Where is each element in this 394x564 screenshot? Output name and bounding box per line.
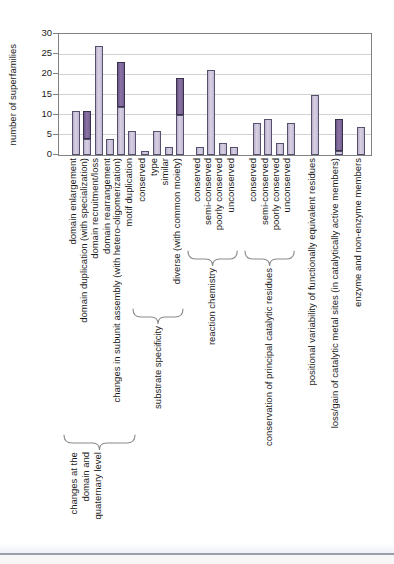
bar-dark-segment bbox=[83, 111, 91, 139]
group-brace bbox=[244, 250, 295, 268]
y-tick-mark bbox=[53, 33, 58, 34]
group-label: changes at the domain and quaternary lev… bbox=[68, 452, 104, 520]
x-category-label: enzyme and non-enzyme members bbox=[352, 158, 364, 307]
group-brace bbox=[63, 434, 136, 452]
y-tick-label-5: 5 bbox=[28, 128, 52, 140]
bar-light-segment bbox=[276, 143, 284, 155]
gridline-25 bbox=[59, 54, 371, 55]
bar-light-segment bbox=[83, 139, 91, 155]
y-tick-label-0: 0 bbox=[28, 148, 52, 160]
x-category-label: motif duplication bbox=[123, 158, 135, 227]
x-category-label: diverse (with common moiety) bbox=[171, 158, 183, 284]
x-category-label: positional variability of functionally e… bbox=[306, 158, 318, 386]
y-tick-label-20: 20 bbox=[28, 67, 52, 79]
x-category-label-slot: loss/gain of catalytic metal sites (in c… bbox=[329, 158, 342, 503]
bar-light-segment bbox=[357, 127, 365, 155]
y-tick-label-15: 15 bbox=[28, 88, 52, 100]
y-tick-mark bbox=[53, 134, 58, 135]
bar-light-segment bbox=[72, 111, 80, 155]
bar-light-segment bbox=[287, 123, 295, 155]
bar-light-segment bbox=[106, 139, 114, 155]
bar-light-segment bbox=[165, 147, 173, 155]
bar-light-segment bbox=[253, 123, 261, 155]
x-category-label: conserved bbox=[136, 158, 148, 202]
bar-light-segment bbox=[264, 119, 272, 155]
x-category-label: loss/gain of catalytic metal sites (in c… bbox=[329, 158, 341, 428]
x-category-label: similar bbox=[159, 158, 171, 185]
group-label: substrate specificity bbox=[152, 326, 164, 409]
y-tick-mark bbox=[53, 73, 58, 74]
y-axis-title: number of superfamilies bbox=[4, 34, 20, 156]
bar-light-segment bbox=[153, 131, 161, 155]
y-axis-title-text: number of superfamilies bbox=[7, 44, 18, 145]
bar-dark-segment bbox=[335, 119, 343, 151]
x-category-label-slot: unconserved bbox=[224, 158, 237, 503]
y-tick-label-25: 25 bbox=[28, 47, 52, 59]
group-brace bbox=[132, 308, 184, 326]
x-category-label-slot: diverse (with common moiety) bbox=[170, 158, 183, 503]
bar-light-segment bbox=[311, 95, 319, 156]
y-tick-mark bbox=[53, 94, 58, 95]
group-label: reaction chemistry bbox=[206, 268, 218, 345]
bar-light-segment bbox=[117, 107, 125, 155]
x-category-label: unconserved bbox=[225, 158, 237, 212]
group-label-slot: changes at the domain and quaternary lev… bbox=[66, 452, 106, 542]
bar-dark-segment bbox=[117, 62, 125, 106]
figure-page: number of superfamilies 051015202530 dom… bbox=[0, 0, 394, 564]
bar-dark-segment bbox=[176, 78, 184, 114]
bar-light-segment bbox=[230, 147, 238, 155]
y-tick-label-10: 10 bbox=[28, 108, 52, 120]
group-label-slot: conservation of principal catalytic resi… bbox=[262, 268, 275, 483]
bottom-margin bbox=[0, 555, 394, 564]
bar-light-segment bbox=[141, 151, 149, 155]
x-category-label-slot: unconserved bbox=[281, 158, 294, 503]
y-tick-mark bbox=[53, 114, 58, 115]
bar-light-segment bbox=[335, 151, 343, 155]
bar-light-segment bbox=[196, 147, 204, 155]
bar-light-segment bbox=[219, 143, 227, 155]
group-brace bbox=[187, 250, 238, 268]
bar-light-segment bbox=[176, 115, 184, 155]
y-tick-mark bbox=[53, 53, 58, 54]
plot-area bbox=[58, 33, 372, 156]
bottom-band bbox=[0, 544, 394, 553]
x-category-label-slot: positional variability of functionally e… bbox=[305, 158, 318, 503]
bar-light-segment bbox=[95, 46, 103, 155]
bar-light-segment bbox=[128, 131, 136, 155]
y-tick-mark bbox=[53, 154, 58, 155]
bar-light-segment bbox=[207, 70, 215, 155]
y-tick-label-30: 30 bbox=[28, 27, 52, 39]
group-label-slot: substrate specificity bbox=[151, 326, 164, 541]
x-category-label-slot: enzyme and non-enzyme members bbox=[351, 158, 364, 503]
group-label: conservation of principal catalytic resi… bbox=[263, 268, 275, 446]
group-label-slot: reaction chemistry bbox=[206, 268, 219, 483]
x-category-label: unconserved bbox=[281, 158, 293, 212]
